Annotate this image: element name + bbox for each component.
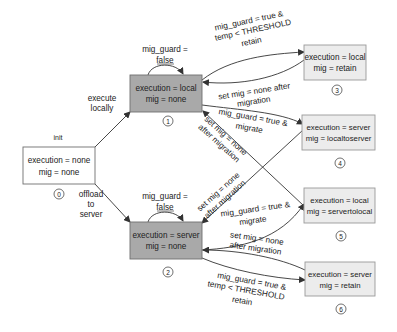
state-3-mig: mig = retain	[313, 64, 356, 73]
state-0-number: 0	[57, 191, 61, 198]
init-label: init	[54, 134, 63, 141]
state-2: execution = server mig = none 2	[130, 222, 202, 277]
edge-2-self-loop	[148, 212, 183, 222]
svg-text:mig_guard =: mig_guard =	[142, 45, 188, 54]
state-3-execution: execution = local	[304, 53, 365, 62]
state-1-number: 1	[166, 118, 170, 125]
state-diagram: execution = none mig = none 0 execution …	[0, 0, 397, 332]
state-0-mig: mig = none	[39, 168, 80, 177]
svg-text:false: false	[156, 203, 174, 212]
svg-text:offload: offload	[79, 190, 104, 199]
state-3-number: 3	[335, 87, 339, 94]
edge-1-to-3	[202, 52, 304, 80]
state-6-mig: mig = retain	[320, 281, 361, 290]
svg-text:false: false	[156, 56, 174, 65]
svg-text:migrate: migrate	[239, 214, 268, 227]
svg-text:mig_guard =: mig_guard =	[142, 192, 188, 201]
svg-text:retain: retain	[240, 35, 262, 48]
diagram-svg: execution = none mig = none 0 execution …	[0, 0, 397, 332]
edge-1-self-loop	[148, 65, 183, 75]
state-5-number: 5	[339, 233, 343, 240]
state-4-mig: mig = localtoserver	[306, 134, 372, 143]
state-1-execution: execution = local	[135, 84, 196, 93]
label-self-loop-1: mig_guard = false	[142, 45, 188, 65]
svg-text:locally: locally	[91, 104, 115, 113]
svg-text:execute: execute	[88, 94, 117, 103]
label-execute-locally: execute locally	[88, 94, 117, 113]
svg-text:server: server	[80, 210, 103, 219]
state-5: execution = local mig = servertolocal 5	[304, 188, 375, 241]
state-4: execution = server mig = localtoserver 4	[302, 115, 375, 168]
label-edge-1-to-3: mig_guard = true & temp < THRESHOLD reta…	[212, 8, 295, 54]
state-4-execution: execution = server	[307, 123, 371, 132]
edge-3-to-1	[203, 60, 304, 83]
state-2-execution: execution = server	[132, 231, 199, 240]
edge-6-to-2	[203, 250, 305, 270]
label-edge-2-to-6: mig_guard = true & temp < THRESHOLD reta…	[205, 269, 287, 312]
state-2-mig: mig = none	[146, 242, 187, 251]
label-edge-2-to-5: mig_guard = true & migrate	[220, 200, 292, 230]
state-6-execution: execution = server	[308, 270, 372, 279]
edge-0-to-1	[95, 112, 130, 147]
state-0-execution: execution = none	[28, 156, 91, 165]
state-3: execution = local mig = retain 3	[304, 45, 366, 95]
state-6: execution = server mig = retain 6	[305, 262, 375, 314]
state-5-execution: execution = local	[310, 196, 369, 205]
state-1: execution = local mig = none 1	[130, 75, 202, 126]
state-2-number: 2	[166, 269, 170, 276]
label-offload-to-server: offload to server	[79, 190, 104, 219]
label-self-loop-2: mig_guard = false	[142, 192, 188, 212]
label-edge-6-to-2: set mig = none after migration	[228, 230, 284, 256]
state-5-mig: mig = servertolocal	[307, 207, 373, 216]
svg-text:retain: retain	[231, 295, 253, 307]
label-edge-3-to-1: set mig = none after migration	[218, 81, 293, 111]
svg-text:to: to	[88, 200, 95, 209]
state-4-number: 4	[338, 160, 342, 167]
state-1-mig: mig = none	[146, 95, 187, 104]
state-6-number: 6	[339, 306, 343, 313]
svg-text:migrate: migrate	[235, 121, 264, 135]
